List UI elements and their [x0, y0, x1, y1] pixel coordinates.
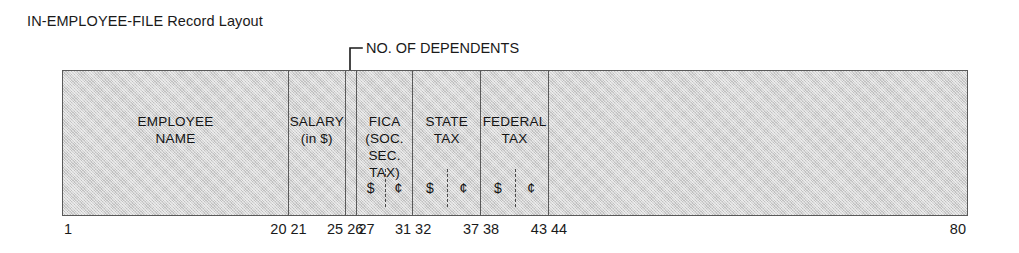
dollars-symbol-state-tax: $	[413, 177, 446, 199]
record-layout-diagram: IN-EMPLOYEE-FILE Record Layout NO. OF DE…	[0, 0, 1019, 253]
cents-symbol-state-tax: ¢	[447, 177, 480, 199]
dollars-symbol-federal-tax: $	[481, 177, 514, 199]
ruler-tick-1: 1	[64, 219, 72, 239]
ruler-tick-32: 32	[415, 219, 431, 239]
field-filler	[549, 71, 967, 215]
money-subdivision-fica: $¢	[357, 177, 413, 199]
field-name-state-tax: STATE TAX	[425, 113, 468, 147]
field-fica: FICA (SOC. SEC. TAX)$¢	[357, 71, 414, 215]
money-subdivision-federal-tax: $¢	[481, 177, 548, 199]
ruler-tick-37: 37	[463, 219, 479, 239]
field-no-of-dependents	[346, 71, 357, 215]
column-position-ruler: 1202125262731323738434480	[62, 219, 968, 243]
field-state-tax: STATE TAX$¢	[413, 71, 481, 215]
ruler-tick-80: 80	[950, 219, 966, 239]
field-salary: SALARY (in $)	[289, 71, 346, 215]
money-subdivision-state-tax: $¢	[413, 177, 480, 199]
ruler-tick-25: 25	[327, 219, 343, 239]
ruler-tick-31: 31	[395, 219, 411, 239]
diagram-title: IN-EMPLOYEE-FILE Record Layout	[27, 13, 263, 29]
field-federal-tax: FEDERAL TAX$¢	[481, 71, 549, 215]
ruler-tick-20: 20	[270, 219, 286, 239]
callout-label: NO. OF DEPENDENTS	[366, 40, 519, 56]
ruler-tick-43: 43	[531, 219, 547, 239]
field-name-salary: SALARY (in $)	[290, 113, 344, 147]
field-employee-name: EMPLOYEE NAME	[63, 71, 289, 215]
field-name-employee-name: EMPLOYEE NAME	[138, 113, 214, 147]
ruler-tick-44: 44	[551, 219, 567, 239]
cents-symbol-fica: ¢	[385, 177, 413, 199]
field-name-federal-tax: FEDERAL TAX	[483, 113, 547, 147]
ruler-tick-38: 38	[483, 219, 499, 239]
record-strip: EMPLOYEE NAMESALARY (in $)FICA (SOC. SEC…	[62, 70, 968, 216]
ruler-tick-21: 21	[291, 219, 307, 239]
dollars-symbol-fica: $	[357, 177, 385, 199]
ruler-tick-27: 27	[358, 219, 374, 239]
cents-symbol-federal-tax: ¢	[515, 177, 548, 199]
